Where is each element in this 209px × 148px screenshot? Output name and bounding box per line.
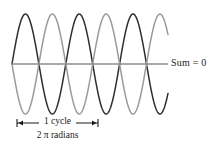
sum-label: Sum = 0 [171, 57, 206, 68]
sinusoid-cancellation-figure: Sum = 0 1 cycle 2 π radians [0, 0, 209, 148]
radians-label: 2 π radians [0, 130, 115, 140]
cycle-bracket-label: 1 cycle [0, 116, 115, 126]
